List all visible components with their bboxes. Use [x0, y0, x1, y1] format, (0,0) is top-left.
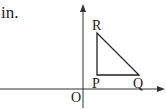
x-axis-arrow-icon [157, 86, 165, 92]
vertex-label-p: P [92, 76, 100, 91]
vertex-label-q: Q [133, 76, 143, 91]
origin-label: O [71, 90, 81, 105]
coordinate-diagram: R P Q O [0, 0, 166, 109]
triangle-pqr [97, 33, 139, 75]
y-axis-arrow-icon [80, 4, 86, 12]
vertex-label-r: R [92, 18, 102, 33]
